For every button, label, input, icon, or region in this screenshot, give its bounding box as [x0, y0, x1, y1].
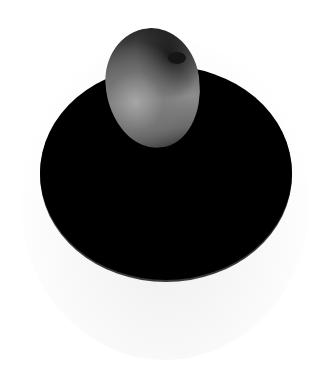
- photo-scene: [0, 0, 312, 382]
- stone-dent: [168, 52, 186, 64]
